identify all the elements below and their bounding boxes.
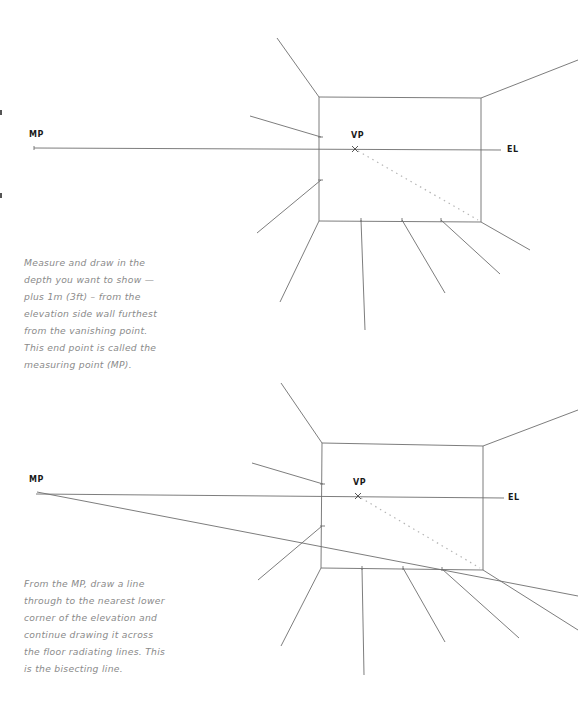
mp-label: MP bbox=[29, 130, 44, 139]
ceiling-line-left bbox=[281, 383, 322, 443]
caption-line: the floor radiating lines. This bbox=[24, 643, 224, 660]
mp-label: MP bbox=[29, 475, 44, 484]
floor-line bbox=[402, 220, 445, 293]
caption-measuring-point: Measure and draw in the depth you want t… bbox=[24, 254, 224, 373]
el-label: EL bbox=[508, 493, 520, 502]
caption-line: elevation side wall furthest bbox=[24, 305, 224, 322]
caption-line: is the bisecting line. bbox=[24, 660, 224, 677]
caption-line: continue drawing it across bbox=[24, 626, 224, 643]
caption-line: Measure and draw in the bbox=[24, 254, 224, 271]
eye-level-line bbox=[36, 494, 504, 498]
elevation-rectangle bbox=[319, 97, 481, 222]
ceiling-line-right bbox=[481, 60, 578, 98]
eye-level-line bbox=[34, 148, 501, 150]
caption-line: from the vanishing point. bbox=[24, 322, 224, 339]
floor-line bbox=[281, 568, 321, 646]
vp-label: VP bbox=[353, 478, 366, 487]
caption-line: This end point is called the bbox=[24, 339, 224, 356]
floor-line bbox=[403, 568, 445, 642]
floor-line bbox=[483, 570, 578, 630]
dotted-guide-line bbox=[358, 151, 478, 220]
wall-line-lower bbox=[258, 526, 322, 580]
floor-line bbox=[280, 221, 319, 302]
vp-label: VP bbox=[351, 131, 364, 140]
wall-line-lower bbox=[257, 180, 321, 233]
wall-line-upper bbox=[250, 116, 321, 137]
caption-line: through to the nearest lower bbox=[24, 592, 224, 609]
caption-line: depth you want to show — bbox=[24, 271, 224, 288]
floor-line bbox=[362, 568, 364, 675]
caption-bisecting-line: From the MP, draw a line through to the … bbox=[24, 575, 224, 677]
caption-line: measuring point (MP). bbox=[24, 356, 224, 373]
floor-line bbox=[442, 569, 519, 638]
caption-line: plus 1m (3ft) – from the bbox=[24, 288, 224, 305]
floor-line bbox=[361, 220, 365, 330]
caption-line: corner of the elevation and bbox=[24, 609, 224, 626]
ceiling-line-right bbox=[483, 410, 578, 446]
wall-line-upper bbox=[252, 463, 323, 484]
floor-line bbox=[481, 222, 530, 250]
ceiling-line-left bbox=[277, 38, 319, 97]
caption-line: From the MP, draw a line bbox=[24, 575, 224, 592]
el-label: EL bbox=[507, 145, 519, 154]
